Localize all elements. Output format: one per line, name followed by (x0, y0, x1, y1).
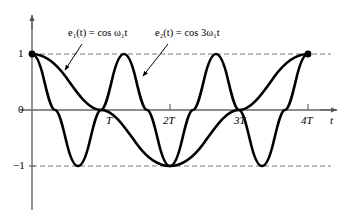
x-axis-label: t (330, 115, 333, 126)
leader-line-e2 (143, 44, 168, 76)
endpoint-marker-start (29, 51, 36, 58)
x-tick-label-3T: 3T (234, 115, 246, 126)
x-tick-label-4T: 4T (301, 115, 313, 126)
x-tick-label-2T: 2T (163, 115, 175, 126)
waveform-figure: e₁(t) = cos ω₁t e₂(t) = cos 3ω₁t 1 0 −1 … (0, 0, 345, 222)
y-tick-label-zero: 0 (18, 104, 24, 115)
x-tick-label-T: T (106, 115, 112, 126)
annotation-e2-label: e₂(t) = cos 3ω₁t (155, 28, 220, 39)
leader-line-e1 (65, 44, 82, 70)
annotation-e1-label: e₁(t) = cos ω₁t (68, 28, 128, 39)
endpoint-marker-end (305, 51, 312, 58)
y-tick-label-minus-one: −1 (13, 160, 25, 171)
y-tick-label-plus-one: 1 (18, 48, 24, 59)
